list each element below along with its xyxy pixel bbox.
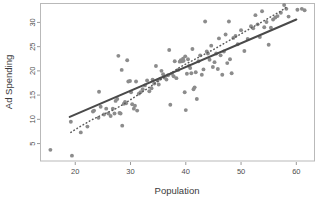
data-point <box>135 109 139 113</box>
y-axis-tick-marks <box>37 22 40 143</box>
data-point <box>209 44 213 48</box>
data-point <box>92 109 96 113</box>
data-point <box>133 104 137 108</box>
data-point <box>125 58 129 62</box>
data-point <box>190 47 194 51</box>
data-point <box>164 78 168 82</box>
x-axis-title: Population <box>155 185 200 196</box>
data-point <box>262 25 266 29</box>
data-point <box>224 33 228 37</box>
data-point <box>154 64 158 68</box>
data-point <box>113 112 117 116</box>
data-point <box>150 86 154 90</box>
regression-line <box>70 20 297 117</box>
data-point <box>303 8 307 12</box>
data-point <box>70 154 74 158</box>
data-point <box>193 85 197 89</box>
data-points-layer <box>48 3 306 158</box>
data-point <box>160 69 164 73</box>
data-point <box>97 90 101 94</box>
y-axis-title: Ad Spending <box>3 55 14 109</box>
data-point <box>195 97 199 101</box>
x-tick-label: 50 <box>237 167 245 176</box>
data-point <box>157 82 161 86</box>
data-point <box>295 8 299 12</box>
data-point <box>230 71 234 75</box>
data-point <box>173 59 177 63</box>
scatter-plot-figure: 2030405060 51015202530 Population Ad Spe… <box>0 0 329 202</box>
x-axis-tick-labels: 2030405060 <box>71 167 300 176</box>
x-tick-label: 40 <box>182 167 190 176</box>
plot-frame <box>41 4 315 162</box>
data-point <box>182 59 186 63</box>
data-point <box>69 120 73 124</box>
data-point <box>200 73 204 77</box>
data-point <box>141 87 145 91</box>
data-point <box>276 14 280 18</box>
data-point <box>186 57 190 61</box>
x-tick-label: 30 <box>126 167 134 176</box>
data-point <box>253 13 257 17</box>
data-point <box>227 19 231 23</box>
data-point <box>267 43 271 47</box>
data-point <box>99 105 103 109</box>
y-tick-label: 20 <box>29 67 38 75</box>
data-point <box>287 15 291 19</box>
data-point <box>85 125 89 129</box>
data-point <box>167 48 171 52</box>
data-point <box>109 114 113 118</box>
data-point <box>239 28 243 32</box>
chart-canvas: 2030405060 51015202530 Population Ad Spe… <box>0 0 329 202</box>
data-point <box>216 67 220 71</box>
data-point <box>242 49 246 53</box>
data-point <box>211 65 215 69</box>
data-point <box>183 54 187 58</box>
data-point <box>184 108 188 112</box>
x-tick-label: 20 <box>71 167 79 176</box>
y-tick-label: 5 <box>29 141 38 145</box>
y-tick-label: 10 <box>29 115 38 123</box>
data-point <box>183 90 187 94</box>
data-point <box>79 130 83 134</box>
data-point <box>120 124 124 128</box>
y-axis-tick-labels: 51015202530 <box>29 18 38 145</box>
data-point <box>168 103 172 107</box>
data-point <box>203 19 207 23</box>
data-point <box>225 61 229 65</box>
x-tick-label: 60 <box>292 167 300 176</box>
y-tick-label: 15 <box>29 91 38 99</box>
x-axis-tick-marks <box>75 162 296 165</box>
data-point <box>185 72 189 76</box>
y-tick-label: 25 <box>29 42 38 50</box>
data-point <box>213 60 217 64</box>
data-point <box>189 71 193 75</box>
data-point <box>228 57 232 61</box>
data-point <box>119 112 123 116</box>
data-point <box>194 70 198 74</box>
data-point <box>220 73 224 77</box>
data-point <box>120 68 124 72</box>
data-point <box>202 67 206 71</box>
y-tick-label: 30 <box>29 18 38 26</box>
data-point <box>265 20 269 24</box>
data-point <box>104 107 108 111</box>
data-point <box>219 53 223 57</box>
data-point <box>48 148 52 152</box>
data-point <box>260 9 264 13</box>
data-point <box>134 80 138 84</box>
data-point <box>128 79 132 83</box>
data-point <box>174 76 178 80</box>
data-point <box>116 54 120 58</box>
data-point <box>282 3 286 7</box>
data-point <box>217 36 221 40</box>
